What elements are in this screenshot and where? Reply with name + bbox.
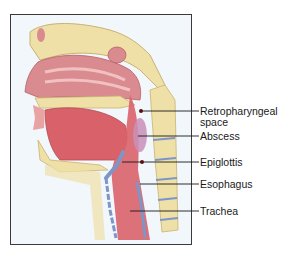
label-esophagus: Esophagus xyxy=(200,179,253,190)
hard-palate xyxy=(35,96,135,108)
frontal-sinus xyxy=(37,28,45,42)
label-epiglottis: Epiglottis xyxy=(200,157,243,168)
head-neck-sagittal-illustration xyxy=(0,0,289,257)
abscess-region xyxy=(133,118,147,152)
tongue xyxy=(45,108,127,160)
neck-skin xyxy=(45,165,105,240)
label-trachea: Trachea xyxy=(200,206,238,217)
label-retropharyngeal-space: Retropharyngeal space xyxy=(200,106,278,128)
lips xyxy=(33,105,45,130)
sphenoid-sinus xyxy=(108,47,126,63)
label-abscess: Abscess xyxy=(200,131,240,142)
